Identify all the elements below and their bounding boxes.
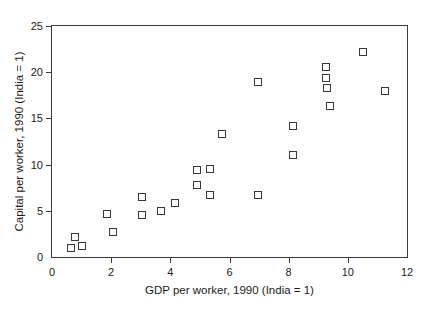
scatter-chart-figure: 0510152025024681012 GDP per worker, 1990… bbox=[0, 0, 424, 309]
x-axis-tick bbox=[111, 257, 112, 263]
y-axis-tick bbox=[46, 72, 52, 73]
data-point-marker bbox=[206, 165, 214, 173]
x-axis-tick-label: 4 bbox=[167, 267, 173, 278]
x-axis-tick-label: 10 bbox=[342, 267, 354, 278]
x-axis-tick bbox=[170, 257, 171, 263]
x-axis-tick-label: 12 bbox=[401, 267, 413, 278]
y-axis-tick-label: 5 bbox=[37, 205, 43, 216]
data-point-marker bbox=[171, 199, 179, 207]
y-axis-title: Capital per worker, 1990 (India = 1) bbox=[14, 25, 26, 258]
data-point-marker bbox=[359, 48, 367, 56]
data-point-marker bbox=[157, 207, 165, 215]
data-point-marker bbox=[71, 233, 79, 241]
data-point-marker bbox=[109, 228, 117, 236]
y-axis-tick-label: 25 bbox=[31, 21, 43, 32]
x-axis-title: GDP per worker, 1990 (India = 1) bbox=[51, 285, 408, 297]
data-point-marker bbox=[254, 78, 262, 86]
data-point-marker bbox=[193, 166, 201, 174]
x-axis-tick bbox=[289, 257, 290, 263]
data-point-marker bbox=[193, 181, 201, 189]
data-point-marker bbox=[138, 211, 146, 219]
x-axis-tick-label: 6 bbox=[226, 267, 232, 278]
x-axis-tick bbox=[348, 257, 349, 263]
data-point-marker bbox=[67, 244, 75, 252]
data-point-marker bbox=[206, 191, 214, 199]
data-point-marker bbox=[218, 130, 226, 138]
y-axis-tick-label: 10 bbox=[31, 159, 43, 170]
data-point-marker bbox=[322, 63, 330, 71]
y-axis-tick bbox=[46, 165, 52, 166]
y-axis-tick-label: 0 bbox=[37, 252, 43, 263]
data-point-marker bbox=[322, 74, 330, 82]
y-axis-tick bbox=[46, 118, 52, 119]
data-point-marker bbox=[381, 87, 389, 95]
y-axis-tick-label: 15 bbox=[31, 113, 43, 124]
y-axis-tick bbox=[46, 26, 52, 27]
data-point-marker bbox=[138, 193, 146, 201]
data-point-marker bbox=[103, 210, 111, 218]
x-axis-tick-label: 0 bbox=[49, 267, 55, 278]
data-point-marker bbox=[289, 122, 297, 130]
plot-area: 0510152025024681012 bbox=[51, 25, 408, 258]
data-point-marker bbox=[326, 102, 334, 110]
x-axis-tick bbox=[230, 257, 231, 263]
data-point-marker bbox=[254, 191, 262, 199]
x-axis-tick-label: 8 bbox=[286, 267, 292, 278]
data-point-marker bbox=[323, 84, 331, 92]
x-axis-tick-label: 2 bbox=[108, 267, 114, 278]
y-axis-tick-label: 20 bbox=[31, 67, 43, 78]
data-point-marker bbox=[78, 242, 86, 250]
data-point-marker bbox=[289, 151, 297, 159]
y-axis-tick bbox=[46, 211, 52, 212]
